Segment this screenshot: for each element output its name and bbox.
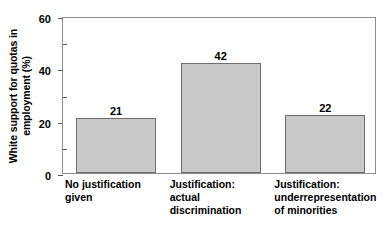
x-category-label-line: actual (170, 191, 242, 204)
x-category-label-line: of minorities (274, 204, 376, 217)
y-tick-label: 60 (39, 13, 51, 25)
x-category-label-line: given (65, 191, 141, 204)
y-axis-label-text: White support for quotas in employment (… (7, 29, 32, 163)
x-category-label-line: discrimination (170, 204, 242, 217)
y-axis-label-line-2: employment (%) (19, 29, 32, 163)
y-tick-major: 60 (58, 18, 63, 19)
x-category-label-line: Justification: (274, 178, 376, 191)
bar-value-label: 21 (110, 105, 122, 117)
y-axis-label: White support for quotas in employment (… (6, 17, 32, 175)
y-tick-label: 20 (39, 118, 51, 130)
bar-value-label: 22 (319, 102, 331, 114)
y-tick-major: 20 (58, 123, 63, 124)
x-category-label: No justificationgiven (65, 178, 141, 204)
y-tick-label: 0 (45, 170, 51, 182)
bar (181, 63, 261, 173)
y-tick-minor (63, 149, 67, 150)
x-category-label: Justification:actualdiscrimination (170, 178, 242, 216)
bar (76, 118, 156, 173)
y-tick-major: 40 (58, 70, 63, 71)
y-tick-label: 40 (39, 65, 51, 77)
bar-value-label: 42 (215, 50, 227, 62)
x-category-label-line: No justification (65, 178, 141, 191)
bar-chart-figure: White support for quotas in employment (… (0, 0, 389, 237)
x-category-label-line: Justification: (170, 178, 242, 191)
y-tick-minor (63, 44, 67, 45)
x-category-label: Justification:underrepresentationof mino… (274, 178, 376, 216)
x-category-label-line: underrepresentation (274, 191, 376, 204)
y-tick-minor (63, 97, 67, 98)
plot-inner: 0204060214222 (63, 18, 375, 173)
y-tick-major: 0 (58, 175, 63, 176)
y-axis-label-line-1: White support for quotas in (7, 29, 20, 163)
bar (285, 115, 365, 173)
plot-area: 0204060214222 (62, 17, 376, 174)
